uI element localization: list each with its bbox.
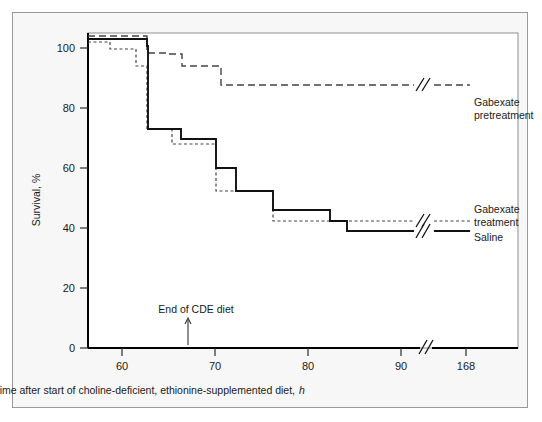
y-tick-label-40: 40 — [63, 222, 75, 234]
y-tick-label-100: 100 — [57, 42, 75, 54]
x-axis-title-unit: h — [299, 384, 305, 396]
x-tick-label-80: 80 — [302, 360, 314, 372]
series-label-gabexate-treatment-line1: Gabexate — [474, 203, 520, 215]
series-label-saline: Saline — [474, 231, 503, 243]
y-tick-label-80: 80 — [63, 102, 75, 114]
x-tick-label-168: 168 — [457, 360, 475, 372]
y-tick-label-20: 20 — [63, 282, 75, 294]
series-label-gabexate-pretreatment-line2: pretreatment — [474, 109, 534, 121]
y-tick-label-60: 60 — [63, 162, 75, 174]
y-tick-marks — [80, 48, 88, 348]
x-tick-label-70: 70 — [209, 360, 221, 372]
x-tick-label-60: 60 — [116, 360, 128, 372]
x-axis-title: Time after start of choline-deficient, e… — [0, 384, 295, 396]
y-axis-title: Survival, % — [30, 174, 42, 227]
survival-chart: 100 80 60 40 20 0 60 70 80 90 168 Surviv… — [0, 0, 542, 422]
y-tick-label-0: 0 — [69, 342, 75, 354]
x-tick-label-90: 90 — [395, 360, 407, 372]
annotation-end-of-cde-diet-label: End of CDE diet — [158, 303, 233, 315]
plot-area — [88, 33, 518, 348]
series-label-gabexate-pretreatment-line1: Gabexate — [474, 96, 520, 108]
series-label-gabexate-treatment-line2: treatment — [474, 216, 518, 228]
x-tick-marks — [122, 348, 466, 356]
